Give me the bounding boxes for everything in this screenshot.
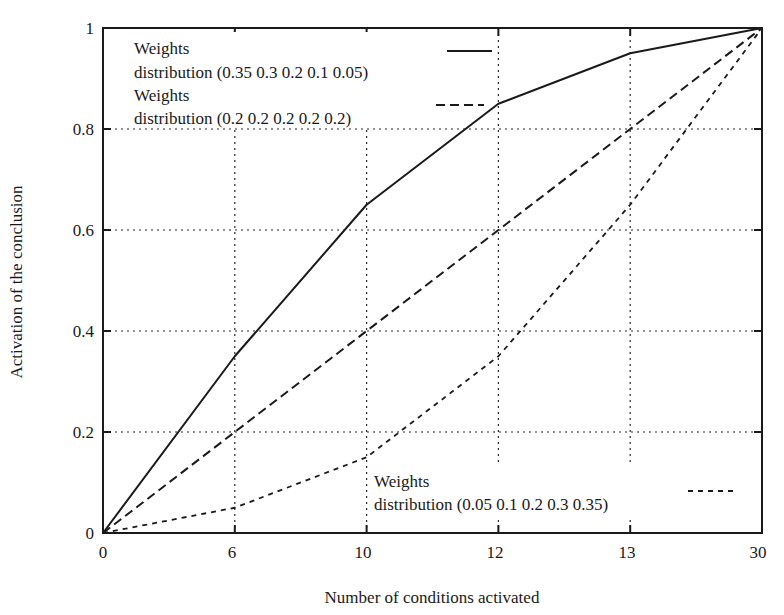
- x-tick-label: 6: [228, 543, 237, 562]
- x-tick-labels: 0 6 10 12 13 30: [99, 543, 767, 562]
- x-tick-label: 30: [750, 543, 767, 562]
- y-tick-label: 0.6: [73, 221, 94, 240]
- legend-label-line2: distribution (0.2 0.2 0.2 0.2 0.2): [134, 109, 351, 128]
- y-tick-label: 1: [86, 19, 95, 38]
- x-tick-label: 10: [355, 543, 372, 562]
- legend-label-line1: Weights: [134, 39, 189, 58]
- legend-label-line2: distribution (0.35 0.3 0.2 0.1 0.05): [134, 63, 368, 82]
- y-tick-labels: 0 0.2 0.4 0.6 0.8 1: [73, 19, 95, 543]
- x-tick-label: 12: [487, 543, 504, 562]
- y-tick-label: 0.2: [73, 423, 94, 442]
- legend-label-line2: distribution (0.05 0.1 0.2 0.3 0.35): [374, 495, 608, 514]
- y-tick-label: 0.4: [73, 322, 95, 341]
- x-tick-label: 13: [619, 543, 636, 562]
- y-axis-label: Activation of the conclusion: [7, 185, 26, 379]
- y-tick-label: 0.8: [73, 120, 94, 139]
- line-chart: 0 0.2 0.4 0.6 0.8 1 0 6 10 12 13 30 Numb…: [0, 0, 784, 615]
- y-tick-label: 0: [86, 524, 95, 543]
- x-tick-label: 0: [99, 543, 108, 562]
- legend-label-line1: Weights: [134, 86, 189, 105]
- x-axis-label: Number of conditions activated: [325, 588, 540, 607]
- legend-label-line1: Weights: [374, 472, 429, 491]
